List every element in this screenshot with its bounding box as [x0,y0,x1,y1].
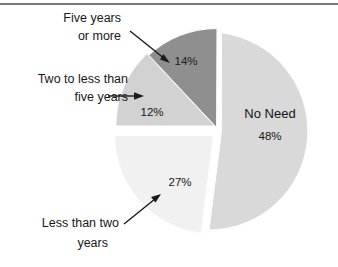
callout-five-years-line2: or more [78,29,121,43]
slice-pct-two-to-five-years: 12% [140,106,163,118]
slice-pct-less-than-two-years: 27% [168,176,191,188]
slice-pct-no-need: 48% [258,130,281,142]
callout-two-to-five-line2: five years [75,90,129,104]
slice-label-no-need: No Need [244,106,295,121]
slice-pct-five-years-or-more: 14% [174,55,197,67]
callout-less-than-two-line1: Less than two [42,216,119,230]
callout-two-to-five-line1: Two to less than [38,72,128,86]
pie-chart-figure: No Need 48% 14% 12% 27% Five years or mo… [0,0,338,267]
callout-five-years-line1: Five years [63,11,121,25]
callout-less-than-two-line2: years [77,236,108,250]
